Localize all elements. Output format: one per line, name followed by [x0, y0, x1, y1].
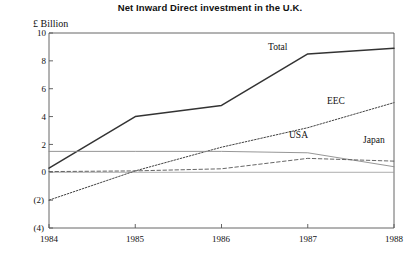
plot-frame [49, 33, 394, 228]
chart-container: Net Inward Direct investment in the U.K.… [0, 0, 420, 255]
plot-area [0, 0, 420, 255]
series-line-japan [49, 158, 394, 171]
series-line-total [49, 48, 394, 168]
